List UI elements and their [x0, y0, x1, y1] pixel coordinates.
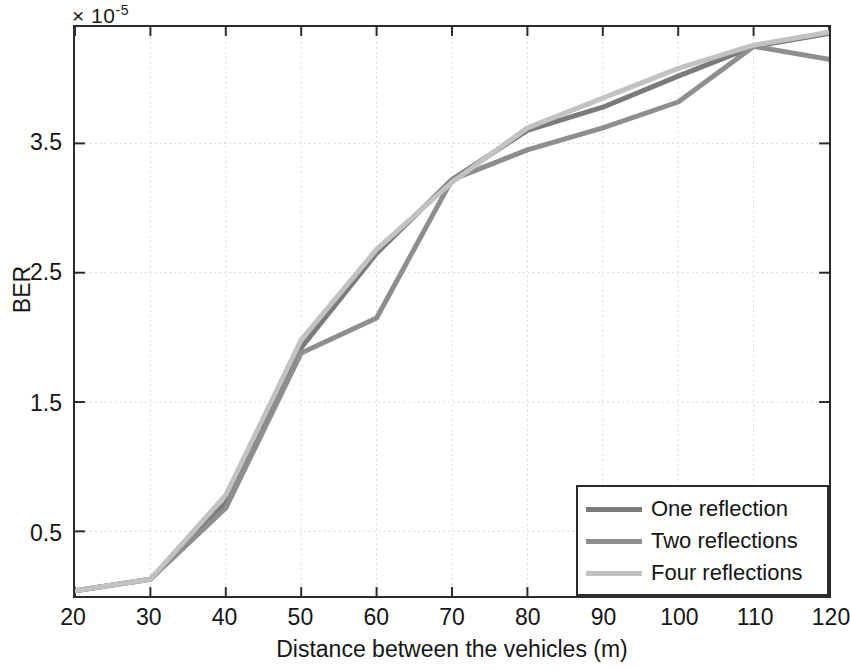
exponent-base: × 10 — [72, 4, 115, 27]
x-tick-label: 100 — [660, 604, 698, 631]
legend-swatch-line-icon — [586, 507, 642, 512]
x-tick-label: 110 — [737, 604, 774, 631]
exponent-power: -5 — [115, 2, 128, 18]
legend-label: Two reflections — [651, 528, 798, 554]
x-tick-label: 120 — [812, 604, 850, 631]
legend-item: Two reflections — [586, 525, 817, 557]
y-tick-label: 0.5 — [30, 519, 62, 546]
legend-item: One reflection — [586, 493, 817, 525]
x-tick-label: 30 — [136, 604, 162, 631]
chart-legend: One reflectionTwo reflectionsFour reflec… — [576, 485, 829, 596]
y-tick-label: 3.5 — [30, 129, 62, 156]
x-tick-label: 70 — [439, 604, 465, 631]
x-tick-label: 20 — [60, 604, 86, 631]
x-tick-label: 90 — [591, 604, 617, 631]
legend-swatch-line-icon — [586, 539, 642, 544]
legend-swatch-line-icon — [586, 571, 642, 576]
x-axis-tick-labels: 2030405060708090100110120 — [73, 604, 831, 634]
y-tick-label: 1.5 — [30, 389, 62, 416]
x-tick-label: 40 — [212, 604, 238, 631]
y-axis-title: BER — [9, 230, 36, 350]
x-tick-label: 60 — [363, 604, 389, 631]
x-tick-label: 50 — [288, 604, 314, 631]
legend-label: One reflection — [651, 496, 788, 522]
legend-item: Four reflections — [586, 557, 817, 589]
x-axis-title: Distance between the vehicles (m) — [73, 636, 831, 663]
legend-label: Four reflections — [651, 560, 803, 586]
x-tick-label: 80 — [515, 604, 541, 631]
